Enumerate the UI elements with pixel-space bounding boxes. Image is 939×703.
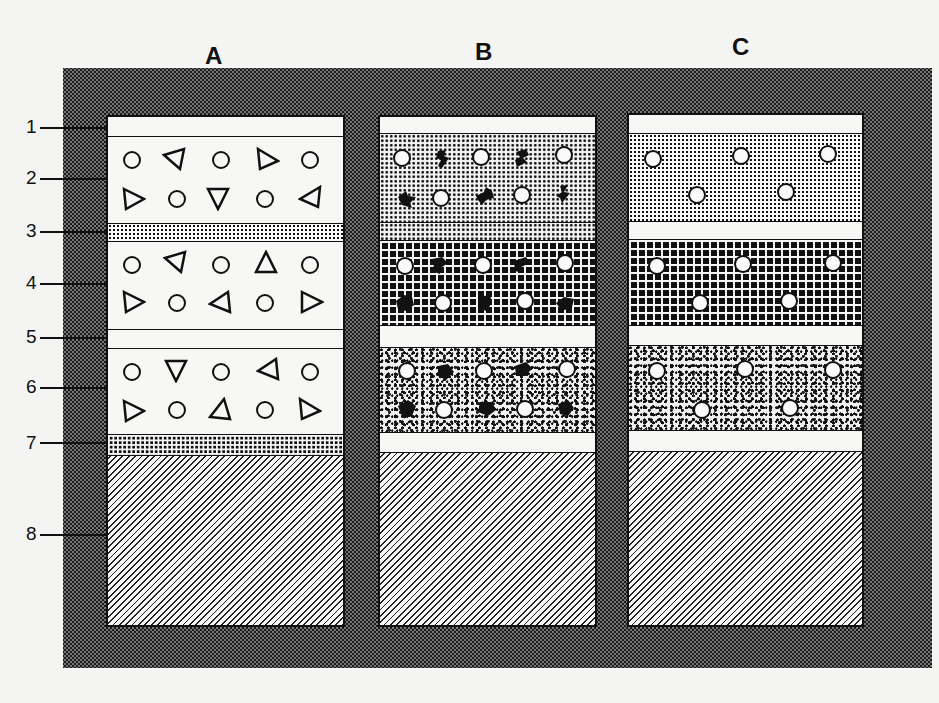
row-label-6: 6 bbox=[26, 376, 37, 398]
column-label-c: C bbox=[732, 33, 749, 61]
circle-grain bbox=[435, 401, 453, 419]
triangle-down-icon bbox=[206, 187, 230, 211]
col-b-layer-4 bbox=[380, 240, 595, 325]
circle-grain bbox=[396, 257, 414, 275]
dark-blob-icon bbox=[396, 398, 418, 418]
circle-grain bbox=[301, 151, 319, 169]
circle-grain bbox=[212, 363, 230, 381]
circle-grain bbox=[123, 363, 141, 381]
col-c-layer-1 bbox=[629, 115, 862, 133]
col-a-layer-1 bbox=[108, 117, 343, 136]
circle-grain bbox=[474, 256, 492, 274]
triangle-left-icon bbox=[162, 147, 186, 171]
circle-grain bbox=[824, 254, 842, 272]
triangle-left-icon bbox=[298, 185, 322, 209]
col-b-layer-8 bbox=[380, 452, 595, 625]
col-a-layer-6 bbox=[108, 348, 343, 434]
dark-blob-icon bbox=[396, 189, 418, 209]
col-b-layer-7 bbox=[380, 432, 595, 452]
triangle-up-icon bbox=[208, 397, 232, 421]
col-a-layer-8 bbox=[108, 455, 343, 625]
circle-grain bbox=[693, 401, 711, 419]
circle-grain bbox=[168, 190, 186, 208]
circle-grain bbox=[301, 256, 319, 274]
circle-grain bbox=[212, 151, 230, 169]
dark-blob-icon bbox=[432, 149, 454, 169]
circle-grain bbox=[648, 362, 666, 380]
circle-grain bbox=[819, 145, 837, 163]
dark-blob-icon bbox=[428, 255, 450, 275]
col-b-layer-6 bbox=[380, 347, 595, 432]
circle-grain bbox=[301, 363, 319, 381]
column-label-a: A bbox=[205, 42, 222, 70]
column-a bbox=[106, 115, 345, 627]
row-label-1: 1 bbox=[26, 116, 37, 138]
dark-blob-icon bbox=[474, 293, 496, 313]
col-c-layer-4 bbox=[629, 239, 862, 325]
circle-grain bbox=[691, 294, 709, 312]
col-a-layer-4 bbox=[108, 241, 343, 329]
leader-line-6 bbox=[40, 387, 115, 389]
circle-grain bbox=[256, 401, 274, 419]
row-label-3: 3 bbox=[26, 220, 37, 242]
circle-grain bbox=[781, 399, 799, 417]
column-b bbox=[378, 115, 597, 627]
leader-line-5 bbox=[40, 337, 115, 339]
leader-line-3 bbox=[40, 231, 115, 233]
circle-grain bbox=[734, 255, 752, 273]
dark-blob-icon bbox=[554, 293, 576, 313]
col-b-layer-1 bbox=[380, 117, 595, 133]
row-label-2: 2 bbox=[26, 167, 37, 189]
col-c-layer-5 bbox=[629, 325, 862, 345]
col-a-layer-2 bbox=[108, 136, 343, 223]
triangle-right-icon bbox=[122, 187, 146, 211]
col-b-layer-3 bbox=[380, 222, 595, 240]
triangle-left-icon bbox=[256, 357, 280, 381]
circle-grain bbox=[644, 150, 662, 168]
dark-blob-icon bbox=[511, 255, 533, 275]
circle-grain bbox=[472, 148, 490, 166]
circle-grain bbox=[256, 294, 274, 312]
col-c-layer-8 bbox=[629, 451, 862, 625]
triangle-up-icon bbox=[254, 250, 278, 274]
circle-grain bbox=[393, 149, 411, 167]
circle-grain bbox=[780, 292, 798, 310]
col-a-layer-3 bbox=[108, 223, 343, 241]
leader-line-7 bbox=[40, 442, 115, 444]
col-b-layer-5 bbox=[380, 325, 595, 347]
triangle-left-icon bbox=[163, 250, 187, 274]
circle-grain bbox=[123, 151, 141, 169]
circle-grain bbox=[123, 256, 141, 274]
circle-grain bbox=[688, 186, 706, 204]
circle-grain bbox=[555, 146, 573, 164]
triangle-right-icon bbox=[256, 147, 280, 171]
triangle-right-icon bbox=[122, 399, 146, 423]
col-a-layer-7 bbox=[108, 434, 343, 455]
circle-grain bbox=[732, 147, 750, 165]
row-label-5: 5 bbox=[26, 326, 37, 348]
circle-grain bbox=[434, 294, 452, 312]
dark-blob-icon bbox=[394, 293, 416, 313]
dark-blob-icon bbox=[434, 362, 456, 382]
dark-blob-icon bbox=[552, 184, 574, 204]
col-c-layer-2 bbox=[629, 133, 862, 221]
col-b-layer-2 bbox=[380, 133, 595, 222]
col-c-layer-7 bbox=[629, 430, 862, 451]
col-c-layer-6 bbox=[629, 345, 862, 430]
row-label-8: 8 bbox=[26, 523, 37, 545]
circle-grain bbox=[558, 360, 576, 378]
circle-grain bbox=[168, 294, 186, 312]
circle-grain bbox=[516, 400, 534, 418]
circle-grain bbox=[777, 183, 795, 201]
circle-grain bbox=[556, 254, 574, 272]
leader-line-1 bbox=[40, 127, 115, 129]
circle-grain bbox=[736, 360, 754, 378]
circle-grain bbox=[824, 361, 842, 379]
col-a-layer-5 bbox=[108, 329, 343, 348]
circle-grain bbox=[648, 257, 666, 275]
leader-line-8 bbox=[40, 534, 115, 536]
leader-line-4 bbox=[40, 283, 115, 285]
circle-grain bbox=[516, 292, 534, 310]
row-label-7: 7 bbox=[26, 432, 37, 454]
circle-grain bbox=[513, 186, 531, 204]
